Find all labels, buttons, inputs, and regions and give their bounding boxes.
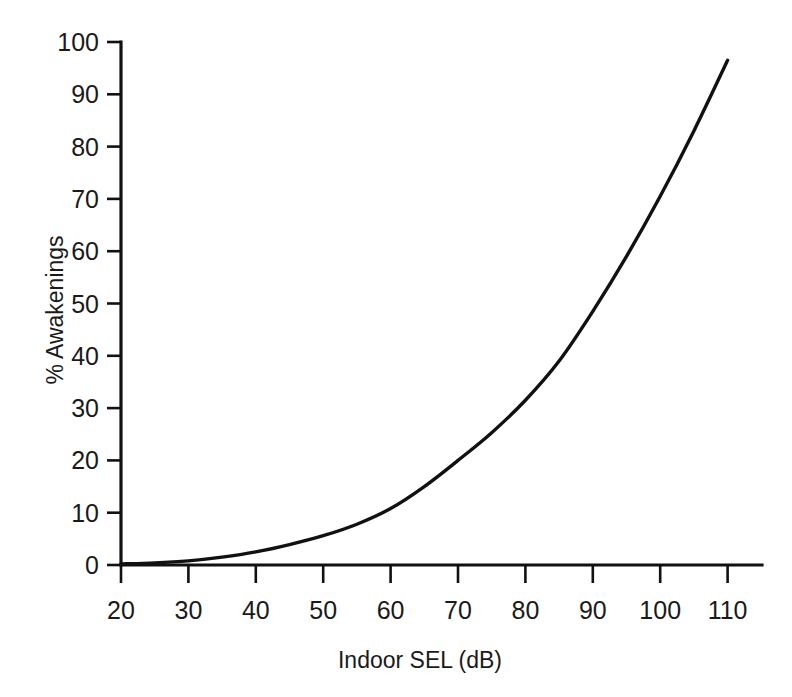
- y-tick-label-30: 30: [71, 394, 99, 422]
- awakenings-line-chart: 100 90 80 70 60 50 40 30 20 10 0: [0, 0, 792, 697]
- y-tick-label-90: 90: [71, 80, 99, 108]
- y-tick-label-50: 50: [71, 290, 99, 318]
- chart-container: 100 90 80 70 60 50 40 30 20 10 0: [0, 0, 792, 697]
- x-tick-label-40: 40: [242, 596, 270, 624]
- y-tick-label-10: 10: [71, 499, 99, 527]
- y-tick-label-100: 100: [57, 28, 99, 56]
- x-tick-label-70: 70: [444, 596, 472, 624]
- chart-background: [0, 0, 792, 697]
- y-tick-label-70: 70: [71, 185, 99, 213]
- y-tick-label-80: 80: [71, 133, 99, 161]
- y-tick-label-40: 40: [71, 342, 99, 370]
- y-tick-label-60: 60: [71, 237, 99, 265]
- x-tick-label-50: 50: [309, 596, 337, 624]
- x-tick-label-110: 110: [708, 596, 748, 624]
- y-tick-label-20: 20: [71, 446, 99, 474]
- x-tick-label-30: 30: [174, 596, 202, 624]
- x-tick-label-60: 60: [377, 596, 405, 624]
- x-axis-title: Indoor SEL (dB): [338, 647, 502, 673]
- x-tick-label-90: 90: [579, 596, 607, 624]
- x-tick-label-100: 100: [639, 596, 681, 624]
- x-tick-label-20: 20: [107, 596, 135, 624]
- x-tick-label-80: 80: [511, 596, 539, 624]
- y-tick-label-0: 0: [85, 551, 99, 579]
- y-axis-title: % Awakenings: [42, 235, 68, 384]
